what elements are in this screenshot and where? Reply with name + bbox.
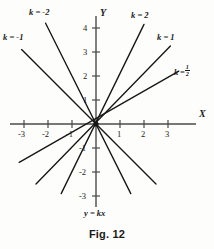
series-label-k-2: k = 2 xyxy=(131,11,149,20)
series-label-k-minus-2-text: k = -2 xyxy=(29,7,49,17)
y-tick-label-2: 2 xyxy=(83,72,87,81)
y-tick-label-4: 4 xyxy=(83,24,87,33)
y-tick-label-3: 3 xyxy=(83,48,87,57)
line-k-minus-2 xyxy=(46,23,131,193)
coordinate-plot xyxy=(0,0,214,249)
series-label-k-minus-2: k = -2 xyxy=(29,8,49,17)
fraction-denominator: 2 xyxy=(185,71,190,77)
x-tick-label-1: 1 xyxy=(117,130,121,139)
y-tick-label--3: -3 xyxy=(79,192,86,201)
y-tick-label-1: 1 xyxy=(83,96,87,105)
series-label-k-1-text: k = 1 xyxy=(157,32,175,42)
line-k-one-half xyxy=(19,71,179,162)
series-label-k-one-half-prefix: k = xyxy=(174,67,185,77)
plot-lines xyxy=(19,23,179,193)
y-tick-label--1: -1 xyxy=(79,144,86,153)
series-label-k-1: k = 1 xyxy=(157,33,175,42)
figure-caption: Fig. 12 xyxy=(0,229,214,240)
equation-label: y = kx xyxy=(84,209,105,218)
x-tick-label--1: -1 xyxy=(66,130,73,139)
fraction-one-half: 12 xyxy=(185,64,190,78)
line-k-2 xyxy=(61,24,144,193)
x-tick-label--2: -2 xyxy=(42,130,49,139)
series-label-k-one-half: k =12 xyxy=(174,64,190,78)
y-axis-label: Y xyxy=(100,8,106,18)
series-label-k-minus-1-text: k = -1 xyxy=(3,32,23,42)
series-label-k-2-text: k = 2 xyxy=(131,10,149,20)
x-axis-label: X xyxy=(199,109,206,119)
y-tick-label--2: -2 xyxy=(79,168,86,177)
origin-point xyxy=(93,121,98,126)
line-k-minus-1 xyxy=(22,50,156,184)
x-tick-label-2: 2 xyxy=(141,130,145,139)
x-tick-label--3: -3 xyxy=(18,130,25,139)
x-tick-label-3: 3 xyxy=(165,130,169,139)
figure-container: X Y -3 -2 -1 1 2 3 4 3 2 1 -1 -2 -3 k = … xyxy=(0,0,214,249)
series-label-k-minus-1: k = -1 xyxy=(3,33,23,42)
axes xyxy=(10,16,196,207)
